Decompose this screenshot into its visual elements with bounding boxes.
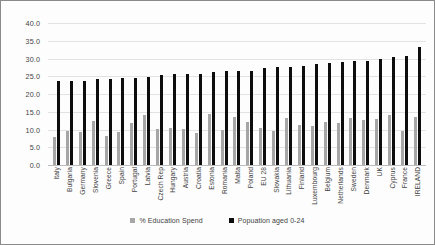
bar-education-spend bbox=[259, 128, 262, 165]
x-axis-tick-label: Croatia bbox=[195, 167, 202, 189]
y-axis-tick-label: 20.0 bbox=[26, 90, 40, 99]
x-axis-tick: Italy bbox=[50, 167, 63, 211]
x-axis-tick: IRELAND bbox=[411, 167, 424, 211]
bar-population-0-24 bbox=[341, 62, 344, 165]
bar-group bbox=[269, 23, 282, 165]
x-axis-tick-label: Latvia bbox=[143, 167, 150, 185]
x-axis-tick: Belgium bbox=[321, 167, 334, 211]
bar-education-spend bbox=[53, 137, 56, 165]
x-axis-tick-label: Romania bbox=[221, 167, 228, 194]
legend-entry[interactable]: % Education Spend bbox=[130, 217, 202, 224]
bar-education-spend bbox=[66, 131, 69, 165]
y-axis-tick-label: 35.0 bbox=[26, 36, 40, 45]
bar-education-spend bbox=[169, 128, 172, 165]
x-axis-tick: Slovakia bbox=[269, 167, 282, 211]
bar-group bbox=[411, 23, 424, 165]
bar-education-spend bbox=[233, 117, 236, 165]
plot-area bbox=[48, 23, 426, 165]
x-axis-tick: Croatia bbox=[192, 167, 205, 211]
bar-population-0-24 bbox=[276, 67, 279, 165]
bar-group bbox=[282, 23, 295, 165]
x-axis-tick: Lithuania bbox=[282, 167, 295, 211]
y-axis-tick-label: 5.0 bbox=[30, 143, 40, 152]
bar-population-0-24 bbox=[83, 81, 86, 165]
bar-population-0-24 bbox=[289, 67, 292, 165]
bar-group bbox=[102, 23, 115, 165]
bar-population-0-24 bbox=[121, 78, 124, 165]
x-axis-tick-label: Slovakia bbox=[272, 167, 279, 193]
bar-education-spend bbox=[401, 131, 404, 165]
x-axis-tick-label: Italy bbox=[53, 167, 60, 180]
x-axis-tick: Romania bbox=[218, 167, 231, 211]
x-axis-tick: Austria bbox=[179, 167, 192, 211]
y-axis-tick-label: 0.0 bbox=[30, 161, 40, 170]
y-axis-tick-label: 25.0 bbox=[26, 72, 40, 81]
x-axis-tick-label: Bulgaria bbox=[66, 167, 73, 192]
bar-group bbox=[76, 23, 89, 165]
bar-group bbox=[398, 23, 411, 165]
bar-population-0-24 bbox=[353, 61, 356, 165]
bar-group bbox=[166, 23, 179, 165]
bar-education-spend bbox=[349, 118, 352, 165]
y-axis-tick-label: 30.0 bbox=[26, 54, 40, 63]
bar-population-0-24 bbox=[160, 75, 163, 165]
y-axis-tick-label: 10.0 bbox=[26, 125, 40, 134]
x-axis-tick-label: Luxembourg bbox=[311, 167, 318, 205]
x-axis-tick-label: France bbox=[401, 167, 408, 188]
x-axis-tick-label: Poland bbox=[246, 167, 253, 188]
x-axis-tick-label: Portugal bbox=[130, 167, 137, 192]
bar-education-spend bbox=[208, 114, 211, 165]
x-axis-tick: Cyprus bbox=[385, 167, 398, 211]
x-axis-tick-label: Denmark bbox=[362, 167, 369, 194]
bar-group bbox=[385, 23, 398, 165]
bar-group bbox=[230, 23, 243, 165]
bar-population-0-24 bbox=[225, 71, 228, 165]
bar-population-0-24 bbox=[147, 77, 150, 165]
bar-education-spend bbox=[195, 133, 198, 165]
bar-population-0-24 bbox=[212, 72, 215, 165]
bar-education-spend bbox=[311, 126, 314, 165]
bar-group bbox=[153, 23, 166, 165]
x-axis-tick-label: Greece bbox=[105, 167, 112, 189]
legend-swatch-icon bbox=[130, 218, 135, 223]
bar-group bbox=[140, 23, 153, 165]
bar-group bbox=[346, 23, 359, 165]
x-axis-tick: UK bbox=[372, 167, 385, 211]
bar-education-spend bbox=[375, 119, 378, 166]
bar-education-spend bbox=[246, 122, 249, 165]
bar-population-0-24 bbox=[134, 78, 137, 165]
x-axis-tick: Slovenia bbox=[89, 167, 102, 211]
x-axis-tick-label: Sweden bbox=[349, 167, 356, 191]
bar-group bbox=[114, 23, 127, 165]
x-axis-tick: Germany bbox=[76, 167, 89, 211]
bar-group bbox=[218, 23, 231, 165]
chart-legend: % Education SpendPopuation aged 0-24 bbox=[1, 217, 434, 224]
x-axis-tick-label: Belgium bbox=[324, 167, 331, 192]
bar-group bbox=[321, 23, 334, 165]
bar-education-spend bbox=[337, 123, 340, 165]
x-axis-tick: Finland bbox=[295, 167, 308, 211]
bar-series-container bbox=[48, 23, 426, 165]
x-axis-tick: Spain bbox=[114, 167, 127, 211]
x-axis-tick-label: Spain bbox=[117, 167, 124, 184]
bar-population-0-24 bbox=[173, 74, 176, 165]
bar-population-0-24 bbox=[405, 56, 408, 165]
x-axis-tick-label: Malta bbox=[233, 167, 240, 184]
bar-education-spend bbox=[117, 132, 120, 165]
bar-group bbox=[256, 23, 269, 165]
x-axis-tick-label: Cyprus bbox=[388, 167, 395, 189]
bar-population-0-24 bbox=[237, 71, 240, 165]
bar-education-spend bbox=[143, 115, 146, 165]
x-axis-tick-label: Netherlands bbox=[337, 167, 344, 204]
x-axis-tick: Malta bbox=[230, 167, 243, 211]
bar-education-spend bbox=[324, 122, 327, 165]
bar-education-spend bbox=[362, 120, 365, 165]
x-axis-tick: Bulgaria bbox=[63, 167, 76, 211]
bar-education-spend bbox=[272, 131, 275, 165]
bar-group bbox=[50, 23, 63, 165]
bar-group bbox=[334, 23, 347, 165]
bar-population-0-24 bbox=[392, 57, 395, 165]
bar-population-0-24 bbox=[109, 79, 112, 165]
bar-education-spend bbox=[285, 118, 288, 165]
legend-entry[interactable]: Popuation aged 0-24 bbox=[229, 217, 305, 224]
